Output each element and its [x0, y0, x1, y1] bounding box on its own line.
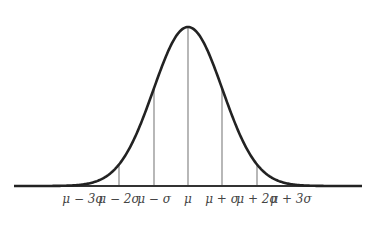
sigma-labels: μ − 3σ μ − 2σ μ − σ μ μ + σ μ + 2σ μ + 3… [62, 192, 312, 206]
label-mu-plus-sigma: μ + σ [205, 192, 239, 206]
label-mu: μ [184, 192, 192, 206]
sigma-vertical-lines [83, 27, 291, 186]
label-mu-plus-3sigma: μ + 3σ [270, 192, 312, 206]
normal-distribution-diagram: μ − 3σ μ − 2σ μ − σ μ μ + σ μ + 2σ μ + 3… [0, 0, 370, 225]
label-mu-minus-2sigma: μ − 2σ [98, 192, 140, 206]
label-mu-minus-sigma: μ − σ [137, 192, 171, 206]
